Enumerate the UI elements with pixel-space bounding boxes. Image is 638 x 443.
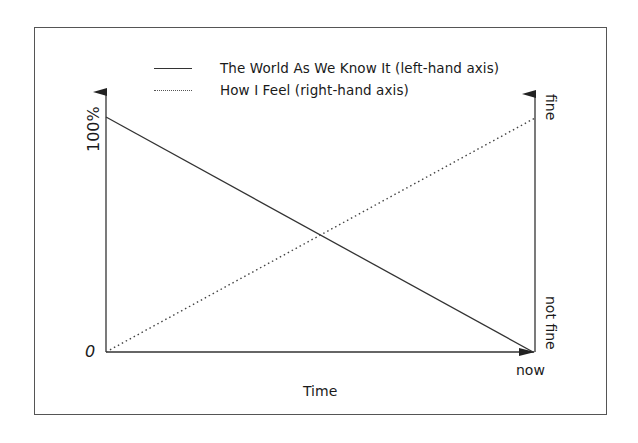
x-axis-title: Time	[303, 383, 337, 399]
right-axis-bottom-label: not fine	[543, 296, 559, 350]
right-axis-top-label: fine	[543, 94, 559, 120]
legend-label: The World As We Know It (left-hand axis)	[220, 60, 499, 76]
legend: The World As We Know It (left-hand axis)…	[154, 57, 499, 101]
left-axis-zero-label: 0	[85, 342, 95, 361]
x-axis-end-label: now	[516, 362, 545, 378]
left-axis-top-label: 100%	[84, 106, 103, 152]
legend-item-world: The World As We Know It (left-hand axis)	[154, 57, 499, 79]
legend-item-feel: How I Feel (right-hand axis)	[154, 79, 499, 101]
legend-label: How I Feel (right-hand axis)	[220, 82, 409, 98]
dotted-line-swatch-icon	[154, 90, 192, 91]
solid-line-swatch-icon	[154, 68, 192, 69]
